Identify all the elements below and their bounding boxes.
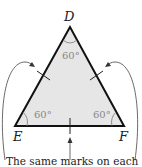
- angle-label-e: 60°: [34, 109, 52, 120]
- triangle-diagram: D E F 60° 60° 60°: [0, 0, 142, 167]
- arrowhead-left-icon: [29, 62, 35, 67]
- vertex-label-e: E: [12, 129, 23, 144]
- angle-label-f: 60°: [93, 109, 111, 120]
- angle-label-d: 60°: [62, 50, 80, 61]
- vertex-label-d: D: [63, 9, 75, 24]
- arrowhead-right-icon: [105, 62, 111, 67]
- caption-text: The same marks on each side: [6, 155, 142, 167]
- vertex-label-f: F: [118, 129, 129, 144]
- arrowhead-up-icon: [68, 137, 73, 143]
